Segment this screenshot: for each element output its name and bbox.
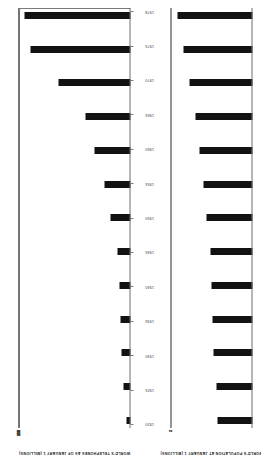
chart-telephones-y-axis-title: WORLD'S TELEPHONES AS OF JANUARY 1 (MILL… bbox=[18, 446, 130, 460]
scanned-figure-page: WORLD'S TELEPHONES AS OF JANUARY 1 (MILL… bbox=[0, 0, 261, 462]
chart-telephones-bars bbox=[18, 8, 130, 428]
chart-population-bar bbox=[217, 417, 252, 424]
x-axis-tick bbox=[130, 146, 133, 153]
chart-telephones: WORLD'S TELEPHONES AS OF JANUARY 1 (MILL… bbox=[18, 6, 130, 456]
chart-population-bar bbox=[189, 80, 252, 87]
x-axis-year-label-text: 1950 bbox=[145, 216, 154, 220]
x-axis-tick bbox=[130, 77, 133, 84]
chart-telephones-bar bbox=[85, 113, 130, 120]
x-axis-year-label: 1970 bbox=[134, 77, 164, 84]
x-axis-tick bbox=[130, 249, 133, 256]
x-axis-year-label: 1920 bbox=[134, 421, 164, 428]
chart-telephones-bar bbox=[117, 248, 130, 255]
chart-population-y-axis-title: WORLD'S POPULATION AT JANUARY 1 (BILLION… bbox=[170, 446, 252, 460]
x-axis-tick-marks bbox=[130, 8, 133, 428]
x-axis-year-labels: 1920192519301935194019451950195519601965… bbox=[134, 8, 164, 428]
chart-telephones-bar bbox=[24, 12, 130, 19]
chart-population-bar bbox=[210, 248, 252, 255]
x-axis-year-label-text: 1920 bbox=[145, 423, 154, 427]
chart-telephones-plot-area: 050100150200250300350400 bbox=[18, 8, 130, 428]
chart-telephones-y-axis-title-text: WORLD'S TELEPHONES AS OF JANUARY 1 (MILL… bbox=[18, 451, 130, 456]
x-axis-tick bbox=[130, 8, 133, 15]
x-axis-year-label-text: 1945 bbox=[145, 250, 154, 254]
x-axis-year-label: 1950 bbox=[134, 215, 164, 222]
x-axis-year-label-text: 1965 bbox=[145, 113, 154, 117]
chart-telephones-bar bbox=[104, 181, 130, 188]
x-axis-year-label-text: 1955 bbox=[145, 182, 154, 186]
chart-population-bar bbox=[216, 383, 252, 390]
x-axis-tick bbox=[130, 352, 133, 359]
figure-canvas: WORLD'S TELEPHONES AS OF JANUARY 1 (MILL… bbox=[0, 0, 261, 462]
x-axis-year-label-text: 1960 bbox=[145, 147, 154, 151]
chart-population-plot-area: 1234 bbox=[170, 8, 252, 428]
x-axis-year-label: 1935 bbox=[134, 318, 164, 325]
x-axis-tick bbox=[130, 318, 133, 325]
x-axis-year-label: 1975 bbox=[134, 43, 164, 50]
chart-population-y-axis-title-text: WORLD'S POPULATION AT JANUARY 1 (BILLION… bbox=[160, 451, 261, 456]
chart-population: WORLD'S POPULATION AT JANUARY 1 (BILLION… bbox=[170, 6, 252, 456]
x-axis-year-label: 1955 bbox=[134, 180, 164, 187]
x-axis-year-label-text: 1970 bbox=[145, 78, 154, 82]
rotated-figure-wrapper: WORLD'S TELEPHONES AS OF JANUARY 1 (MILL… bbox=[0, 0, 261, 462]
x-axis-tick bbox=[130, 111, 133, 118]
chart-telephones-y-tick-label: 400 bbox=[16, 430, 20, 436]
chart-telephones-bar bbox=[110, 215, 130, 222]
chart-population-bar bbox=[206, 215, 252, 222]
x-axis-year-label: 1978 bbox=[134, 8, 164, 15]
x-axis-tick bbox=[130, 387, 133, 394]
x-axis-year-label: 1925 bbox=[134, 387, 164, 394]
x-axis-year-label: 1945 bbox=[134, 249, 164, 256]
chart-population-bar bbox=[199, 147, 252, 154]
chart-population-bar bbox=[183, 46, 252, 53]
x-axis-year-label-text: 1930 bbox=[145, 354, 154, 358]
chart-population-bar bbox=[213, 350, 252, 357]
chart-telephones-bar bbox=[30, 46, 130, 53]
x-axis-tick bbox=[130, 180, 133, 187]
chart-population-y-tick-label: 4 bbox=[168, 430, 172, 432]
chart-telephones-right-rule bbox=[18, 8, 130, 9]
chart-population-bar bbox=[211, 282, 252, 289]
x-axis-year-label: 1930 bbox=[134, 352, 164, 359]
x-axis-year-label-text: 1935 bbox=[145, 319, 154, 323]
x-axis-year-label: 1965 bbox=[134, 111, 164, 118]
x-axis-year-label: 1960 bbox=[134, 146, 164, 153]
chart-population-bar bbox=[195, 113, 252, 120]
x-axis-tick bbox=[130, 421, 133, 428]
x-axis-year-label: 1940 bbox=[134, 283, 164, 290]
x-axis-year-label-text: 1925 bbox=[145, 388, 154, 392]
x-axis-year-label-text: 1978 bbox=[145, 10, 154, 14]
chart-population-bar bbox=[203, 181, 252, 188]
x-axis-year-label-text: 1940 bbox=[145, 285, 154, 289]
chart-population-bar bbox=[177, 12, 252, 19]
x-axis-tick bbox=[130, 43, 133, 50]
chart-telephones-bar bbox=[94, 147, 130, 154]
chart-population-baseline bbox=[251, 8, 252, 428]
chart-telephones-bar bbox=[119, 282, 130, 289]
chart-population-bar bbox=[212, 316, 252, 323]
chart-population-bars bbox=[170, 8, 252, 428]
x-axis-year-label-text: 1975 bbox=[145, 44, 154, 48]
x-axis-tick bbox=[130, 215, 133, 222]
chart-telephones-bar bbox=[58, 80, 130, 87]
x-axis-tick bbox=[130, 283, 133, 290]
